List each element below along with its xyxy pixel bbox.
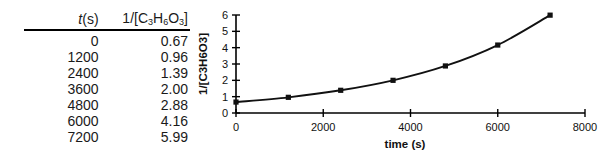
conc-mid-2: O (168, 10, 179, 26)
table-row: 00.67 (24, 30, 190, 49)
cell-inverse-concentration: 2.88 (101, 97, 190, 113)
y-axis-tick-label: 5 (222, 25, 228, 37)
y-axis-tick-label: 6 (222, 9, 228, 21)
data-table-panel: t(s) 1/[C3H6O3] 00.6712000.9624001.39360… (0, 0, 196, 165)
cell-inverse-concentration: 4.16 (101, 113, 190, 129)
x-axis-tick-label: 6000 (486, 121, 510, 133)
kinetics-line-chart: 0123456 02000400060008000 time (s) 1/[C3… (196, 0, 613, 165)
cell-inverse-concentration: 0.96 (101, 49, 190, 65)
cell-inverse-concentration: 0.67 (101, 30, 190, 49)
data-point-marker (233, 99, 238, 104)
cell-time: 2400 (24, 65, 101, 81)
data-point-marker (548, 13, 553, 18)
series-line (236, 15, 550, 102)
data-point-marker (443, 63, 448, 68)
cell-inverse-concentration: 1.39 (101, 65, 190, 81)
table-row: 24001.39 (24, 65, 190, 81)
column-header-time: t(s) (24, 11, 101, 30)
table-row: 72005.99 (24, 129, 190, 145)
y-axis-title: 1/[C3H6O3] (197, 33, 209, 95)
table-row: 36002.00 (24, 81, 190, 97)
table-row: 60004.16 (24, 113, 190, 129)
x-axis-tick-label: 8000 (573, 121, 597, 133)
cell-inverse-concentration: 2.00 (101, 81, 190, 97)
chart-panel: 0123456 02000400060008000 time (s) 1/[C3… (196, 0, 613, 165)
y-axis-tick-label: 3 (222, 58, 228, 70)
column-header-inverse-concentration: 1/[C3H6O3] (101, 11, 190, 30)
x-axis-tick-label: 2000 (311, 121, 335, 133)
y-axis-tick-label: 2 (222, 74, 228, 86)
y-axis-tick-label: 0 (222, 107, 228, 119)
cell-time: 0 (24, 30, 101, 49)
x-axis-title: time (s) (385, 138, 426, 150)
data-point-marker (495, 42, 500, 47)
column-header-time-unit: (s) (82, 11, 98, 27)
data-point-marker (338, 88, 343, 93)
kinetics-data-table: t(s) 1/[C3H6O3] 00.6712000.9624001.39360… (24, 11, 190, 145)
cell-time: 1200 (24, 49, 101, 65)
data-point-marker (390, 78, 395, 83)
table-row: 48002.88 (24, 97, 190, 113)
cell-time: 3600 (24, 81, 101, 97)
cell-time: 6000 (24, 113, 101, 129)
data-series (233, 13, 552, 105)
conc-suffix: ] (184, 10, 188, 26)
cell-inverse-concentration: 5.99 (101, 129, 190, 145)
conc-prefix: 1/[C (122, 10, 148, 26)
cell-time: 4800 (24, 97, 101, 113)
y-axis-tick-label: 1 (222, 91, 228, 103)
x-axis-tick-label: 4000 (398, 121, 422, 133)
x-axis: 02000400060008000 (233, 109, 597, 133)
table-header: t(s) 1/[C3H6O3] (24, 11, 190, 30)
data-point-marker (286, 95, 291, 100)
table-row: 12000.96 (24, 49, 190, 65)
table-header-row: t(s) 1/[C3H6O3] (24, 11, 190, 30)
conc-mid-1: H (153, 10, 163, 26)
y-axis-tick-label: 4 (222, 42, 228, 54)
x-axis-tick-label: 0 (233, 121, 239, 133)
table-body: 00.6712000.9624001.3936002.0048002.88600… (24, 30, 190, 145)
cell-time: 7200 (24, 129, 101, 145)
